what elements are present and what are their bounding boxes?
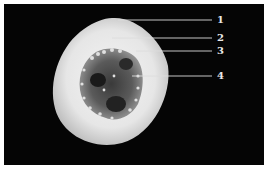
specimen-illustration	[4, 4, 264, 165]
callout-label-2: 2	[217, 33, 224, 43]
callout-label-1: 1	[217, 15, 224, 25]
callout-label-3: 3	[217, 46, 224, 56]
specimen-photo: 1 2 3 4	[4, 4, 264, 165]
callout-label-4: 4	[217, 71, 224, 81]
